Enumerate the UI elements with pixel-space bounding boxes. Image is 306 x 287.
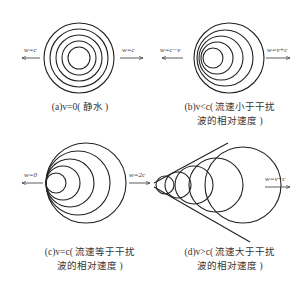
mach-line-lower xyxy=(154,187,250,242)
wave-circle-b-3 xyxy=(197,30,253,86)
caption-d-line2: 波的相对速度 ) xyxy=(170,259,290,273)
wave-propagation-diagram: w=c w=c w=c−v w=v+c w=0 w=2c w=v+c (a)v=… xyxy=(0,0,306,287)
caption-a: (a)v=0( 静水 ) xyxy=(30,100,130,114)
caption-d: (d)v>c( 流速大于干扰 波的相对速度 ) xyxy=(170,245,290,273)
wave-circle-a-0 xyxy=(68,47,90,69)
wave-circle-a-4 xyxy=(44,23,114,93)
label-a-right: w=c xyxy=(122,46,135,54)
label-d-right: w=v+c xyxy=(265,175,285,183)
wave-circle-a-1 xyxy=(62,41,96,75)
wave-circle-c-2 xyxy=(46,159,94,207)
wave-circle-d-3 xyxy=(189,158,243,212)
wave-circle-b-1 xyxy=(201,42,233,74)
caption-c: (c)v=c( 流速等于干扰 波的相对速度 ) xyxy=(30,245,150,273)
caption-d-line1: (d)v>c( 流速大于干扰 xyxy=(170,245,290,259)
wave-circle-c-0 xyxy=(46,173,66,193)
caption-c-line1: (c)v=c( 流速等于干扰 xyxy=(30,245,150,259)
label-c-left: w=0 xyxy=(24,171,37,179)
wave-circle-b-0 xyxy=(203,48,223,68)
label-b-right: w=v+c xyxy=(267,46,287,54)
caption-c-line2: 波的相对速度 ) xyxy=(30,259,150,273)
diagram-canvas xyxy=(0,0,306,287)
wave-circle-c-4 xyxy=(46,143,126,223)
caption-b-line2: 波的相对速度 ) xyxy=(170,114,290,128)
caption-b: (b)v<c( 流速小于干扰 波的相对速度 ) xyxy=(170,100,290,128)
caption-b-line1: (b)v<c( 流速小于干扰 xyxy=(170,100,290,114)
label-c-right: w=2c xyxy=(129,171,145,179)
wave-circle-a-3 xyxy=(50,29,108,87)
label-a-left: w=c xyxy=(24,46,37,54)
wave-circle-a-2 xyxy=(56,35,102,81)
wave-circle-d-1 xyxy=(165,172,191,198)
mach-line-upper xyxy=(154,143,228,183)
caption-a-line1: (a)v=0( 静水 ) xyxy=(30,100,130,114)
label-b-left: w=c−v xyxy=(160,46,180,54)
wave-circle-c-1 xyxy=(46,166,80,200)
